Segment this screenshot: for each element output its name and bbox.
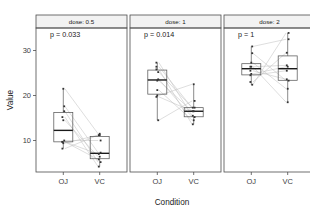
data-point	[100, 161, 102, 163]
data-point	[287, 101, 289, 103]
data-point	[100, 140, 102, 142]
data-point	[62, 148, 64, 150]
data-point	[192, 107, 194, 109]
data-point	[193, 119, 195, 121]
data-point	[286, 52, 288, 54]
data-point	[251, 52, 253, 54]
data-point	[250, 62, 252, 64]
data-point	[62, 88, 64, 90]
x-tick-label: OJ	[59, 177, 69, 186]
data-point	[250, 73, 252, 75]
data-point	[62, 119, 64, 121]
x-tick-label: VC	[282, 177, 293, 186]
data-point	[156, 89, 158, 91]
data-point	[62, 141, 64, 143]
x-tick-label: OJ	[153, 177, 163, 186]
data-point	[156, 62, 158, 64]
data-point	[288, 32, 290, 34]
data-point	[156, 69, 158, 71]
data-point	[63, 110, 65, 112]
data-point	[193, 83, 195, 85]
data-point	[192, 123, 194, 125]
p-value-annotation: p = 0.033	[50, 30, 80, 39]
data-point	[63, 140, 65, 142]
y-tick-label: 20	[23, 91, 31, 100]
data-point	[157, 119, 159, 121]
data-point	[288, 38, 290, 40]
data-point	[251, 84, 253, 86]
data-point	[62, 116, 64, 118]
data-point	[194, 107, 196, 109]
data-point	[286, 70, 288, 72]
facet-strip-label: dose: 1	[165, 18, 186, 25]
data-point	[157, 71, 159, 73]
data-point	[250, 70, 252, 72]
y-axis-title: Value	[6, 89, 15, 110]
data-point	[98, 153, 100, 155]
data-point	[194, 116, 196, 118]
y-tick-label: 10	[23, 136, 31, 145]
data-point	[100, 152, 102, 154]
data-point	[98, 166, 100, 168]
facet-strip-label: dose: 2	[259, 18, 280, 25]
x-tick-label: OJ	[247, 177, 257, 186]
boxplot-figure: 102030 Value dose: 0.5p = 0.033OJVCdose:…	[0, 0, 310, 209]
data-point	[99, 134, 101, 136]
facet-strip-label: dose: 0.5	[69, 18, 95, 25]
y-tick-label: 30	[23, 46, 31, 55]
data-point	[193, 110, 195, 112]
data-point	[157, 78, 159, 80]
data-point	[156, 66, 158, 68]
chart-container: 102030 Value dose: 0.5p = 0.033OJVCdose:…	[0, 0, 310, 209]
data-point	[286, 64, 288, 66]
data-point	[287, 88, 289, 90]
x-tick-label: VC	[188, 177, 199, 186]
data-point	[192, 115, 194, 117]
data-point	[286, 78, 288, 80]
data-point	[250, 81, 252, 83]
data-point	[251, 46, 253, 48]
p-value-annotation: p = 0.014	[144, 30, 174, 39]
x-axis-title: Condition	[155, 198, 190, 207]
data-point	[194, 100, 196, 102]
data-point	[156, 95, 158, 97]
data-point	[98, 159, 100, 161]
data-point	[99, 156, 101, 158]
data-point	[288, 80, 290, 82]
p-value-annotation: p = 1	[238, 30, 254, 39]
x-tick-label: VC	[94, 177, 105, 186]
data-point	[63, 105, 65, 107]
data-point	[250, 66, 252, 68]
